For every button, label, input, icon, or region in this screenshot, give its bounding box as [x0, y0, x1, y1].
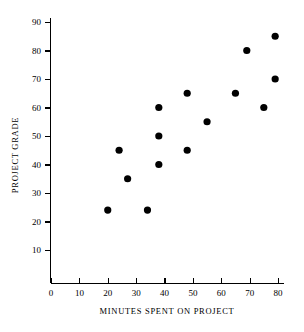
- data-point: [184, 90, 191, 97]
- y-tick-label: 90: [32, 17, 42, 27]
- y-axis-tick-labels: 102030405060708090: [32, 17, 42, 255]
- x-axis: 01020304050607080: [49, 278, 284, 299]
- data-point: [203, 118, 210, 125]
- plot-canvas: 102030405060708090 01020304050607080 MIN…: [0, 0, 304, 332]
- x-tick-label: 0: [49, 288, 54, 298]
- x-axis-tick-marks: [52, 278, 279, 284]
- y-axis-tick-marks: [45, 23, 51, 251]
- x-tick-label: 80: [274, 288, 284, 298]
- scatter-plot-figure: 102030405060708090 01020304050607080 MIN…: [0, 0, 304, 332]
- data-point: [124, 175, 131, 182]
- y-tick-label: 20: [32, 217, 42, 227]
- y-tick-label: 70: [32, 74, 42, 84]
- x-tick-label: 60: [217, 288, 227, 298]
- data-point: [232, 90, 239, 97]
- x-axis-title: MINUTES SPENT ON PROJECT: [100, 306, 235, 316]
- data-point: [260, 104, 267, 111]
- y-tick-label: 60: [32, 103, 42, 113]
- x-tick-label: 10: [75, 288, 85, 298]
- x-tick-label: 50: [188, 288, 198, 298]
- data-point: [155, 161, 162, 168]
- data-point: [144, 207, 151, 214]
- y-tick-label: 80: [32, 46, 42, 56]
- data-point: [155, 132, 162, 139]
- x-tick-label: 70: [245, 288, 255, 298]
- data-point: [116, 147, 123, 154]
- data-point: [272, 33, 279, 40]
- x-axis-tick-labels: 01020304050607080: [49, 288, 283, 298]
- y-axis-title: PROJECT GRADE: [10, 117, 20, 193]
- y-tick-label: 10: [32, 245, 42, 255]
- data-point: [243, 47, 250, 54]
- x-tick-label: 30: [132, 288, 142, 298]
- y-tick-label: 30: [32, 188, 42, 198]
- data-point: [184, 147, 191, 154]
- data-point: [272, 75, 279, 82]
- x-tick-label: 40: [160, 288, 170, 298]
- y-tick-label: 50: [32, 131, 42, 141]
- data-point: [155, 104, 162, 111]
- data-points: [104, 33, 279, 214]
- y-axis: 102030405060708090: [32, 17, 51, 283]
- x-tick-label: 20: [103, 288, 113, 298]
- y-tick-label: 40: [32, 160, 42, 170]
- data-point: [104, 207, 111, 214]
